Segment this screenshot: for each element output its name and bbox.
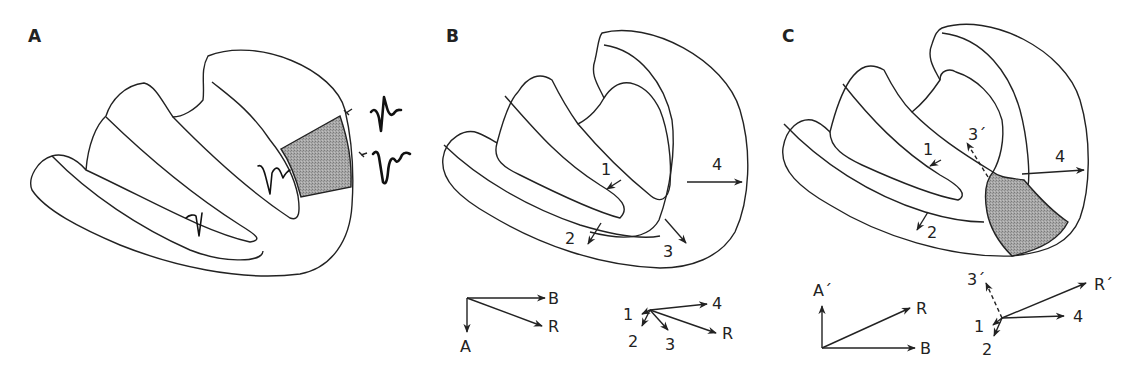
wave-epicardial-lower-a (373, 152, 410, 183)
wave-epicardial-upper-a (371, 97, 401, 131)
vector-3prime-c-label: 3´ (968, 125, 986, 144)
summary-vectors-b: B R A (460, 289, 559, 356)
vector-2-b-label: 2 (565, 229, 575, 248)
sum-Rprime-c-label: R´ (1094, 275, 1113, 294)
vector-R-c-label: R (916, 299, 927, 318)
vector-3-b-label: 3 (663, 242, 673, 261)
summation-vectors-b: 4 R 3 1 2 (623, 294, 733, 354)
vector-R-c (822, 308, 910, 348)
sum-2-c-label: 2 (982, 340, 992, 359)
vector-A-b-label: A (460, 337, 471, 356)
vector-1-c-label: 1 (923, 140, 933, 159)
sum-4-c (1002, 316, 1064, 318)
ecg-vector-figure: A B 1 2 3 4 (0, 0, 1131, 374)
sum-3prime-c (986, 283, 1002, 318)
vector-Aprime-c-label: A´ (813, 281, 832, 300)
panel-c-label: C (782, 26, 794, 46)
vector-B-b-label: B (548, 289, 559, 308)
sum-3-b-label: 3 (665, 335, 675, 354)
vector-R-b-label: R (548, 317, 559, 336)
electrode-tick-lower-a (359, 152, 367, 157)
sum-4-c-label: 4 (1073, 307, 1083, 326)
sum-4-b-label: 4 (712, 294, 722, 313)
summary-vectors-c: A´ R B (813, 281, 931, 358)
sum-1-b-label: 1 (623, 305, 633, 324)
vector-B-c-label: B (920, 339, 931, 358)
sum-4-b (650, 304, 707, 310)
vector-2-c-label: 2 (927, 223, 937, 242)
sum-3prime-c-label: 3´ (967, 270, 985, 289)
figure-canvas: A B 1 2 3 4 (0, 0, 1131, 374)
sum-1-c-label: 1 (974, 317, 984, 336)
panel-b-label: B (446, 26, 459, 46)
panel-a: A (28, 26, 410, 276)
sum-R-b-label: R (722, 324, 733, 343)
panel-b: B 1 2 3 4 B R A 4 R 3 (443, 26, 748, 356)
vector-4-b-label: 4 (712, 155, 722, 174)
vector-1-b-label: 1 (601, 160, 611, 179)
vector-4-c-label: 4 (1055, 147, 1065, 166)
sum-2-b-label: 2 (628, 332, 638, 351)
panel-c: C 1 2 3´ 4 A´ R B 3´ R´ (782, 24, 1113, 359)
panel-a-label: A (28, 26, 42, 46)
summation-vectors-c: 3´ R´ 4 1 2 (967, 270, 1113, 359)
vector-R-b (467, 298, 542, 326)
